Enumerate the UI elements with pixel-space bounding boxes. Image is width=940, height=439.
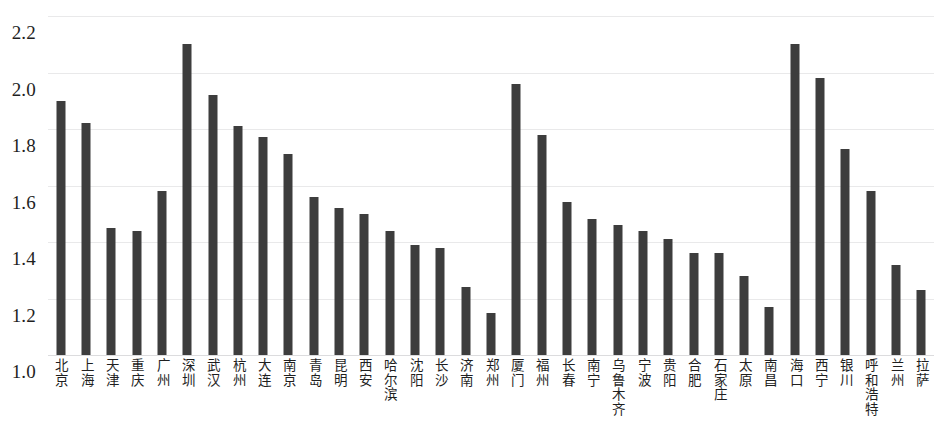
bar[interactable] <box>284 154 293 355</box>
y-tick-label: 1.6 <box>12 192 36 211</box>
bar[interactable] <box>56 101 65 355</box>
x-tick-label: 昆明 <box>332 358 346 387</box>
x-tick-slot: 上海 <box>73 357 98 439</box>
x-tick-label: 海口 <box>788 358 802 387</box>
bar[interactable] <box>436 248 445 355</box>
bar[interactable] <box>562 202 571 355</box>
x-tick-slot: 昆明 <box>326 357 351 439</box>
x-tick-label: 郑州 <box>484 358 498 387</box>
bar-slot <box>731 16 756 355</box>
bar[interactable] <box>107 228 116 355</box>
bar[interactable] <box>132 231 141 355</box>
x-tick-label: 西宁 <box>813 358 827 387</box>
bar[interactable] <box>461 287 470 355</box>
x-tick-slot: 兰州 <box>883 357 908 439</box>
bar[interactable] <box>892 265 901 355</box>
bar[interactable] <box>208 95 217 355</box>
bar[interactable] <box>841 149 850 355</box>
gridline <box>48 355 934 356</box>
bar[interactable] <box>233 126 242 355</box>
y-tick-label: 1.0 <box>12 362 36 381</box>
bar-slot <box>529 16 554 355</box>
x-tick-label: 济南 <box>459 358 473 387</box>
x-tick-label: 乌鲁木齐 <box>611 358 625 416</box>
bar[interactable] <box>866 191 875 355</box>
x-tick-label: 兰州 <box>889 358 903 387</box>
x-tick-label: 大连 <box>256 358 270 387</box>
x-tick-slot: 贵阳 <box>656 357 681 439</box>
y-tick-label: 1.4 <box>12 249 36 268</box>
x-tick-slot: 乌鲁木齐 <box>605 357 630 439</box>
y-tick-label: 2.2 <box>12 23 36 42</box>
bar-slot <box>883 16 908 355</box>
x-tick-label: 天津 <box>105 358 119 387</box>
x-tick-slot: 银川 <box>833 357 858 439</box>
bar[interactable] <box>537 135 546 355</box>
bar-slot <box>757 16 782 355</box>
x-tick-slot: 西安 <box>352 357 377 439</box>
bar[interactable] <box>588 219 597 355</box>
x-tick-label: 拉萨 <box>915 358 929 387</box>
bar[interactable] <box>765 307 774 355</box>
bar[interactable] <box>613 225 622 355</box>
bar[interactable] <box>157 191 166 355</box>
x-tick-slot: 深圳 <box>175 357 200 439</box>
x-tick-slot: 杭州 <box>225 357 250 439</box>
bar[interactable] <box>335 208 344 355</box>
bar[interactable] <box>81 123 90 355</box>
y-tick-label: 1.8 <box>12 136 36 155</box>
bar-slot <box>681 16 706 355</box>
x-tick-slot: 海口 <box>782 357 807 439</box>
x-tick-slot: 宁波 <box>630 357 655 439</box>
bar-slot <box>807 16 832 355</box>
x-tick-slot: 长春 <box>554 357 579 439</box>
x-tick-label: 北京 <box>54 358 68 387</box>
x-tick-slot: 郑州 <box>478 357 503 439</box>
bar-slot <box>352 16 377 355</box>
x-tick-label: 长沙 <box>434 358 448 387</box>
bar-slot <box>580 16 605 355</box>
x-tick-slot: 石家庄 <box>706 357 731 439</box>
bar[interactable] <box>309 197 318 355</box>
bar-slot <box>175 16 200 355</box>
x-tick-slot: 大连 <box>251 357 276 439</box>
bar[interactable] <box>714 253 723 355</box>
bar-slot <box>301 16 326 355</box>
bar-slot <box>48 16 73 355</box>
bar-slot <box>276 16 301 355</box>
bar[interactable] <box>790 44 799 355</box>
bar-chart-figure: 1.01.21.41.61.82.02.2 北京上海天津重庆广州深圳武汉杭州大连… <box>0 0 940 439</box>
bar[interactable] <box>183 44 192 355</box>
bar-slot <box>377 16 402 355</box>
bar[interactable] <box>689 253 698 355</box>
bar-slot <box>706 16 731 355</box>
x-tick-label: 宁波 <box>636 358 650 387</box>
bar[interactable] <box>638 231 647 355</box>
bar[interactable] <box>259 137 268 355</box>
bar[interactable] <box>740 276 749 355</box>
x-tick-label: 广州 <box>155 358 169 387</box>
x-tick-slot: 济南 <box>453 357 478 439</box>
bar[interactable] <box>917 290 926 355</box>
x-axis-tick-labels: 北京上海天津重庆广州深圳武汉杭州大连南京青岛昆明西安哈尔滨沈阳长沙济南郑州厦门福… <box>48 357 934 439</box>
x-tick-slot: 福州 <box>529 357 554 439</box>
bar[interactable] <box>664 239 673 355</box>
x-tick-slot: 沈阳 <box>402 357 427 439</box>
bar[interactable] <box>486 313 495 355</box>
bar-slot <box>428 16 453 355</box>
bar-slot <box>630 16 655 355</box>
x-tick-label: 深圳 <box>180 358 194 387</box>
x-tick-label: 西安 <box>358 358 372 387</box>
x-tick-slot: 太原 <box>731 357 756 439</box>
x-tick-slot: 合肥 <box>681 357 706 439</box>
bar[interactable] <box>411 245 420 355</box>
x-tick-slot: 天津 <box>99 357 124 439</box>
bar[interactable] <box>360 214 369 355</box>
bar[interactable] <box>512 84 521 355</box>
y-tick-label: 1.2 <box>12 305 36 324</box>
bar-slot <box>478 16 503 355</box>
bar[interactable] <box>385 231 394 355</box>
bar-slot <box>554 16 579 355</box>
bar[interactable] <box>816 78 825 355</box>
x-tick-label: 南宁 <box>586 358 600 387</box>
